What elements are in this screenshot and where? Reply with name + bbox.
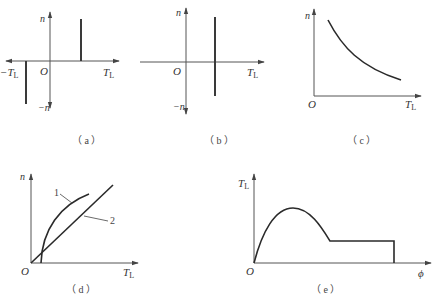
curve-1 bbox=[41, 194, 89, 263]
panel-c: n O TL （ c ） bbox=[305, 9, 421, 146]
curve-2-label: 2 bbox=[110, 215, 115, 226]
x-label-tl: TL bbox=[405, 98, 416, 112]
y-label-neg-n: −n bbox=[173, 101, 185, 112]
origin-label: O bbox=[308, 98, 316, 110]
x-label-tl: TL bbox=[247, 66, 258, 80]
y-label-tl: TL bbox=[238, 177, 249, 191]
panel-a: n −n O TL −TL （ a ） bbox=[0, 12, 119, 146]
caption-b: （ b ） bbox=[204, 135, 234, 146]
x-label-phi: ϕ bbox=[418, 267, 424, 279]
y-label-n: n bbox=[40, 13, 45, 24]
origin-label: O bbox=[173, 65, 181, 77]
caption-c: （ c ） bbox=[347, 135, 376, 146]
x-label-neg-tl: −TL bbox=[0, 66, 19, 80]
y-label-n: n bbox=[176, 7, 181, 18]
constant-power-curve bbox=[328, 20, 401, 80]
origin-label: O bbox=[40, 65, 48, 77]
panel-b: n −n O TL （ b ） bbox=[140, 7, 264, 146]
origin-label: O bbox=[246, 265, 254, 277]
y-label-n: n bbox=[305, 10, 310, 21]
panel-e: TL O ϕ （ e ） bbox=[238, 174, 431, 295]
curve-2-leader bbox=[84, 216, 108, 221]
panel-d: 1 2 n O TL （ d ） bbox=[20, 171, 138, 295]
origin-label: O bbox=[21, 265, 29, 277]
curve-2-line bbox=[31, 185, 113, 263]
curve-1-label: 1 bbox=[54, 187, 59, 198]
x-label-tl: TL bbox=[103, 66, 114, 80]
caption-e: （ e ） bbox=[311, 284, 340, 295]
caption-a: （ a ） bbox=[72, 135, 101, 146]
caption-d: （ d ） bbox=[66, 284, 96, 295]
torque-angle-curve bbox=[254, 208, 394, 263]
y-label-n: n bbox=[20, 171, 25, 182]
curve-1-leader bbox=[60, 194, 72, 203]
x-label-tl: TL bbox=[123, 266, 134, 280]
y-label-neg-n: −n bbox=[38, 102, 50, 113]
